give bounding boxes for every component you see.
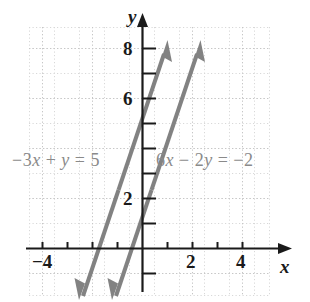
eq-right-minus: − <box>179 150 190 170</box>
graph-figure: 8 6 2 −4 2 4 y x −3x + y = 5 6x − 2y = −… <box>0 0 310 302</box>
y-axis <box>137 13 148 292</box>
eq-right-var2: y <box>204 150 213 170</box>
eq-left-rhs: 5 <box>90 150 100 170</box>
y-tick-label-2: 2 <box>123 188 133 210</box>
eq-right-coef2: 2 <box>195 150 205 170</box>
x-tick-label-2: 2 <box>186 251 196 273</box>
x-tick-label-minus4: −4 <box>32 251 52 273</box>
eq-right-rhs: −2 <box>233 150 253 170</box>
eq-left-var1: x <box>32 150 41 170</box>
eq-left-plus: + <box>46 150 57 170</box>
y-tick-label-8: 8 <box>123 38 133 60</box>
eq-right-var1: x <box>166 150 175 170</box>
eq-left-equals: = <box>75 150 86 170</box>
x-tick-label-4: 4 <box>236 251 246 273</box>
eq-left-coef: −3 <box>12 150 32 170</box>
equation-label-left: −3x + y = 5 <box>12 150 100 171</box>
eq-right-coef: 6 <box>156 150 166 170</box>
eq-left-var2: y <box>61 150 70 170</box>
equation-label-right: 6x − 2y = −2 <box>156 150 253 171</box>
x-axis <box>26 243 292 254</box>
y-tick-label-6: 6 <box>123 88 133 110</box>
y-axis-label: y <box>128 6 136 28</box>
eq-right-equals: = <box>218 150 229 170</box>
x-axis-label: x <box>280 256 290 278</box>
